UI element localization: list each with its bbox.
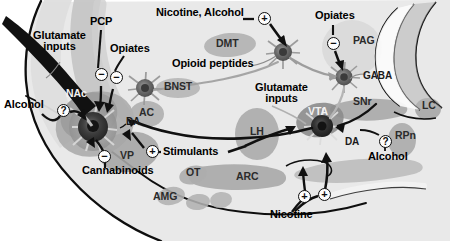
label-region-nac: NAc: [66, 88, 87, 99]
label-region-lh: LH: [250, 126, 264, 137]
sign-plus-nicotine-alcohol: +: [258, 12, 271, 25]
label-region-ot: OT: [186, 167, 200, 178]
label-nicotine: Nicotine: [270, 209, 313, 220]
label-opioid-peptides: Opioid peptides: [172, 58, 254, 69]
label-region-dmt: DMT: [216, 38, 238, 49]
brain-circuitry-figure: Glutamate inputs PCP Opiates Alcohol Can…: [0, 0, 450, 241]
label-nicotine-alcohol: Nicotine, Alcohol: [156, 7, 244, 18]
label-glutamate-inputs-left: Glutamate inputs: [33, 30, 86, 52]
label-da-vta: DA: [345, 137, 359, 147]
sign-minus-opiates-pag: −: [327, 37, 340, 50]
label-da-nac: DA: [126, 117, 140, 127]
label-region-arc: ARC: [236, 171, 258, 182]
sign-minus-opiates-nac: −: [110, 71, 123, 84]
label-region-vta: VTA: [308, 106, 328, 117]
sign-plus-stimulants: +: [146, 145, 159, 158]
label-alcohol-vta: Alcohol: [368, 151, 408, 162]
label-alcohol-nac: Alcohol: [4, 99, 44, 110]
label-glutamate-inputs-right: Glutamate inputs: [255, 82, 308, 104]
label-opiates-pag: Opiates: [315, 10, 355, 21]
label-opiates-nac: Opiates: [110, 43, 150, 54]
label-region-vp: VP: [120, 150, 134, 161]
sign-minus-cannabinoids: −: [98, 150, 111, 163]
sign-plus-nicotine-left: +: [298, 190, 311, 203]
label-stimulants: Stimulants: [163, 146, 218, 157]
label-region-rpn: RPn: [395, 130, 416, 141]
label-cannabinoids: Cannabinoids: [82, 165, 154, 176]
label-region-lc: LC: [422, 100, 436, 111]
label-glutamate-inputs-left-line2: inputs: [33, 41, 86, 52]
sign-minus-pcp: −: [95, 68, 108, 81]
label-glutamate-inputs-right-line2: inputs: [255, 93, 308, 104]
sign-plus-nicotine-right: +: [318, 188, 331, 201]
label-region-pag: PAG: [353, 35, 375, 46]
label-gaba: GABA: [363, 71, 392, 81]
label-region-snr: SNr: [353, 96, 371, 107]
label-pcp: PCP: [90, 16, 112, 27]
label-region-amg: AMG: [153, 191, 177, 202]
sign-question-alcohol-vta: ?: [379, 135, 392, 148]
sign-question-alcohol-nac: ?: [57, 104, 70, 117]
label-region-bnst: BNST: [164, 81, 192, 92]
label-region-ac: AC: [139, 107, 154, 118]
